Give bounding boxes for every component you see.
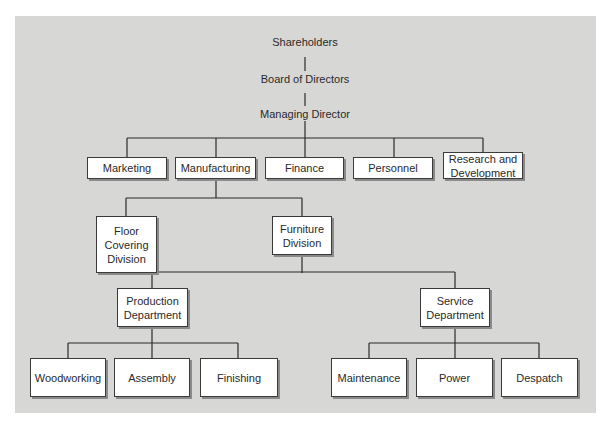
node-maintenance: Maintenance [331, 358, 407, 397]
node-furniture-division: Furniture Division [272, 216, 332, 255]
node-production-department: Production Department [117, 288, 188, 327]
node-personnel: Personnel [353, 157, 433, 179]
node-board-of-directors: Board of Directors [261, 73, 350, 86]
node-research-and-development: Research and Development [443, 152, 523, 179]
node-floor-covering-division: Floor Covering Division [96, 216, 157, 273]
node-power: Power [416, 358, 493, 397]
node-finishing: Finishing [200, 358, 278, 397]
node-service-department: Service Department [420, 288, 490, 327]
node-assembly: Assembly [114, 358, 190, 397]
node-woodworking: Woodworking [30, 358, 106, 397]
node-managing-director: Managing Director [260, 108, 350, 121]
node-marketing: Marketing [87, 157, 167, 179]
node-manufacturing: Manufacturing [175, 157, 256, 179]
node-despatch: Despatch [501, 358, 578, 397]
node-shareholders: Shareholders [272, 36, 337, 49]
node-finance: Finance [265, 157, 344, 179]
